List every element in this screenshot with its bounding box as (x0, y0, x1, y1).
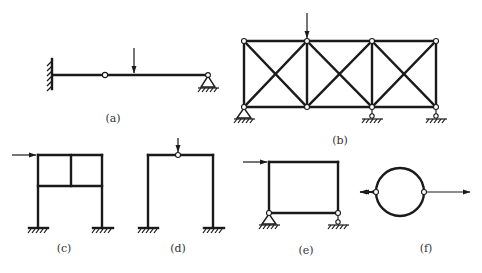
hinge-icon (102, 72, 107, 77)
hinge-icon (422, 190, 427, 195)
panel-c: (c) (12, 155, 113, 255)
panel-label: (f) (420, 242, 433, 255)
panel-label: (e) (298, 244, 313, 257)
panel-label: (c) (57, 242, 72, 255)
panel-d: (d) (138, 138, 224, 255)
panel-label: (d) (170, 242, 186, 255)
hinge-icon (176, 153, 181, 158)
hinge-icon (206, 73, 211, 78)
hinge-icon (267, 211, 272, 216)
fixed-support-icon (92, 228, 113, 233)
panel-e: (e) (243, 162, 349, 257)
panel-b: (b) (234, 13, 447, 147)
roller-support-icon (328, 215, 349, 229)
pin-support-icon (259, 214, 280, 229)
fixed-support-icon (138, 228, 158, 233)
ring (376, 168, 424, 216)
panel-a: (a) (47, 48, 219, 125)
hinge-icon (336, 211, 341, 216)
panel-label: (b) (332, 134, 348, 147)
truss-members (244, 41, 436, 107)
hinge-icon (374, 190, 379, 195)
pin-support-icon (198, 76, 219, 92)
fixed-support-icon (47, 59, 52, 91)
panel-label: (a) (105, 112, 120, 125)
pin-support-icon (234, 108, 255, 123)
fixed-support-icon (203, 228, 224, 233)
fixed-support-icon (28, 228, 48, 233)
roller-support-icon (426, 109, 447, 123)
roller-support-icon (362, 109, 383, 123)
panel-f: (f) (360, 168, 470, 255)
structural-diagrams: (a) (0, 0, 482, 273)
